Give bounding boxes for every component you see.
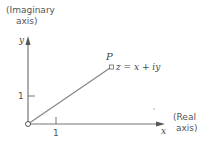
y-axis-label-line2: axis) [16,16,38,26]
y-axis-label-line1: (Imaginary [6,5,55,15]
x-axis-label-line1: (Real [173,112,196,122]
y-axis-symbol: y [19,35,24,45]
y-axis-arrow-icon [26,36,31,45]
x-axis-symbol: x [161,126,166,136]
y-tick-label: 1 [18,91,24,101]
point-equation: z = x + iy [116,62,160,72]
x-axis-label-line2: axis) [176,123,198,133]
vector-line [28,68,110,124]
origin-marker [26,122,31,127]
point-p-label: P [106,52,113,62]
complex-plane-diagram: (Imaginary axis) y 1 1 x (Real axis) P z… [0,0,203,145]
stray-dot [153,108,154,109]
x-tick-label: 1 [53,128,59,138]
point-p-marker [110,65,114,69]
